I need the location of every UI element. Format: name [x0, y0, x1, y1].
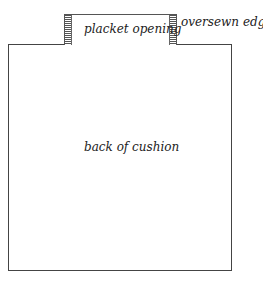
oversewn-edges-label: oversewn edges [181, 15, 263, 29]
cushion-back-panel [8, 44, 232, 271]
placket-opening-label: placket opening [84, 22, 181, 36]
back-of-cushion-label: back of cushion [84, 140, 179, 154]
oversewn-edge-left [65, 15, 72, 45]
